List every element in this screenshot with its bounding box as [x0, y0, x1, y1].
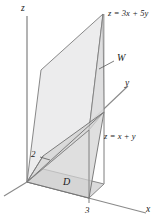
z-axis-label: z [21, 3, 25, 13]
tick-label-y-2: 2 [31, 149, 36, 159]
bottom-plane-equation-label: z = x + y [104, 131, 136, 141]
solid-region-label: W [117, 52, 125, 63]
x-axis-label: x [146, 204, 150, 214]
base-region-label: D [63, 176, 70, 187]
figure-canvas: z x y z = 3x + 5y z = x + y W D 2 3 [0, 0, 159, 224]
solid-region-svg [0, 0, 159, 224]
y-axis-label: y [125, 78, 129, 88]
tick-label-x-3: 3 [85, 205, 90, 215]
top-plane-equation-label: z = 3x + 5y [108, 8, 148, 18]
x-axis-negative-stub [4, 182, 27, 196]
